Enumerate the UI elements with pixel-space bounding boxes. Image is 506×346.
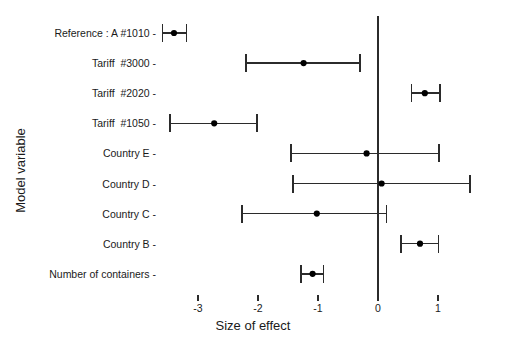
forest-row (293, 175, 470, 193)
y-axis-label-2: Tariff #2020 - (92, 87, 156, 99)
forest-row (291, 144, 439, 162)
y-axis-label-7: Country B - (103, 238, 156, 250)
forest-plot-figure: Model variable Size of effect Reference … (0, 0, 506, 346)
point-estimate-marker (211, 120, 217, 126)
point-estimate-marker (417, 241, 423, 247)
point-estimate-marker (310, 271, 316, 277)
plot-canvas (0, 0, 506, 346)
y-axis-label-6: Country C - (102, 208, 156, 220)
forest-row (401, 235, 439, 253)
x-axis-label-2: -1 (313, 302, 322, 314)
point-estimate-marker (301, 60, 307, 66)
x-axis-label-4: 1 (435, 302, 441, 314)
y-axis-label-3: Tariff #1050 - (92, 117, 156, 129)
forest-row (170, 114, 257, 132)
x-axis-label-0: -3 (193, 302, 202, 314)
x-axis-label-1: -2 (253, 302, 262, 314)
forest-row (242, 205, 387, 223)
forest-row (163, 24, 187, 42)
forest-row (301, 265, 323, 283)
y-axis-label-8: Number of containers - (49, 268, 156, 280)
forest-row (246, 54, 360, 72)
y-axis-label-4: Country E - (103, 147, 156, 159)
x-axis-title: Size of effect (0, 318, 506, 333)
y-axis-title: Model variable (13, 101, 28, 241)
point-estimate-marker (314, 211, 320, 217)
x-axis-label-3: 0 (375, 302, 381, 314)
y-axis-label-0: Reference : A #1010 - (54, 27, 156, 39)
point-estimate-marker (379, 180, 385, 186)
y-axis-label-1: Tariff #3000 - (92, 57, 156, 69)
point-estimate-marker (364, 150, 370, 156)
point-estimate-marker (171, 30, 177, 36)
y-axis-label-5: Country D - (102, 178, 156, 190)
point-estimate-marker (422, 90, 428, 96)
forest-row (412, 84, 440, 102)
